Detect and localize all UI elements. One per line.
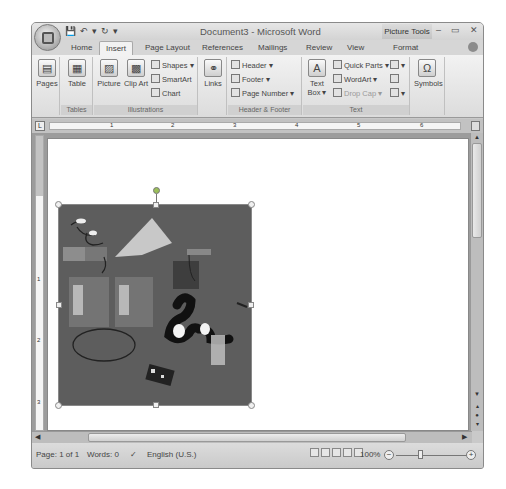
table-button[interactable]: ▦ Table <box>64 59 90 88</box>
text-box-icon: A <box>308 59 326 77</box>
scroll-left-button[interactable]: ◀ <box>35 433 40 441</box>
web-layout-view-icon[interactable] <box>332 448 341 457</box>
previous-page-button[interactable]: ▴ <box>473 403 481 410</box>
scroll-down-button[interactable]: ▼ <box>473 391 481 398</box>
table-icon: ▦ <box>68 59 86 77</box>
object-button[interactable]: ▾ <box>390 88 405 99</box>
tab-view[interactable]: View <box>341 41 370 55</box>
page-icon: ▤ <box>38 59 56 77</box>
group-tables: ▦ Table Tables <box>61 57 93 115</box>
picture-tools-label: Picture Tools <box>382 24 432 39</box>
group-label-tables: Tables <box>61 105 92 115</box>
outline-view-icon[interactable] <box>343 448 352 457</box>
tab-references[interactable]: References <box>196 41 249 55</box>
tab-mailings[interactable]: Mailings <box>252 41 293 55</box>
picture-icon: ▨ <box>100 59 118 77</box>
zoom-in-button[interactable]: + <box>466 450 476 460</box>
tab-home[interactable]: Home <box>65 41 98 55</box>
redo-icon[interactable]: ↻ <box>101 25 109 37</box>
group-illustrations: ▨ Picture ▩ Clip Art Shapes ▾ SmartArt C… <box>94 57 198 115</box>
zoom-level[interactable]: 100% <box>360 450 380 459</box>
resize-handle-bottom[interactable] <box>153 402 159 408</box>
resize-handle-top[interactable] <box>153 202 159 208</box>
clip-art-button[interactable]: ▩ Clip Art <box>123 59 149 88</box>
tab-format[interactable]: Format <box>387 41 424 55</box>
document-page[interactable] <box>47 138 469 431</box>
rotation-handle[interactable] <box>153 187 160 194</box>
clip-art-icon: ▩ <box>127 59 145 77</box>
group-label-text: Text <box>303 105 409 115</box>
chart-button[interactable]: Chart <box>151 88 180 99</box>
title-bar: 💾 ↶ ▾ ↻ ▾ Document3 - Microsoft Word Pic… <box>32 23 483 40</box>
resize-handle-top-left[interactable] <box>55 201 62 208</box>
resize-handle-bottom-right[interactable] <box>248 402 255 409</box>
selected-picture[interactable] <box>58 204 252 406</box>
header-button[interactable]: Header ▾ <box>231 60 273 71</box>
shapes-button[interactable]: Shapes ▾ <box>151 60 194 71</box>
drop-cap-button[interactable]: Drop Cap ▾ <box>333 88 382 99</box>
group-text: A Text Box ▾ Quick Parts ▾ WordArt ▾ Dro… <box>303 57 410 115</box>
links-button[interactable]: ⚭ Links <box>200 59 226 88</box>
language[interactable]: English (U.S.) <box>147 450 196 459</box>
vertical-ruler[interactable]: 1 2 3 <box>35 135 44 431</box>
select-browse-object-button[interactable]: ● <box>473 412 481 419</box>
group-label-illustrations: Illustrations <box>94 105 197 115</box>
office-logo-icon <box>42 32 54 44</box>
undo-icon[interactable]: ↶ <box>80 25 88 37</box>
page-number-button[interactable]: Page Number ▾ <box>231 88 294 99</box>
scroll-right-button[interactable]: ▶ <box>462 433 467 441</box>
save-icon[interactable]: 💾 <box>65 25 76 37</box>
tab-review[interactable]: Review <box>300 41 338 55</box>
resize-handle-left[interactable] <box>56 302 62 308</box>
word-window: 💾 ↶ ▾ ↻ ▾ Document3 - Microsoft Word Pic… <box>31 22 484 469</box>
text-box-button[interactable]: A Text Box ▾ <box>304 59 330 97</box>
group-pages: ▤ Pages <box>34 57 60 115</box>
header-icon <box>231 60 240 69</box>
links-icon: ⚭ <box>204 59 222 77</box>
tab-page-layout[interactable]: Page Layout <box>139 41 196 55</box>
vertical-scrollbar[interactable]: ▲ ▼ ▴ ● ▾ <box>470 133 483 431</box>
resize-handle-bottom-left[interactable] <box>55 402 62 409</box>
undo-dropdown-icon[interactable]: ▾ <box>92 25 97 37</box>
tab-selector[interactable]: L <box>35 121 45 131</box>
proofing-icon[interactable]: ✓ <box>130 450 137 459</box>
pages-button[interactable]: ▤ Pages <box>34 59 60 88</box>
horizontal-ruler[interactable]: 1 2 3 4 5 6 <box>49 122 461 130</box>
customize-qat-icon[interactable]: ▾ <box>113 25 118 37</box>
help-icon[interactable] <box>468 42 478 52</box>
document-area: 1 2 3 <box>32 133 472 431</box>
picture-button[interactable]: ▨ Picture <box>96 59 122 88</box>
zoom-slider-thumb[interactable] <box>418 450 423 459</box>
footer-button[interactable]: Footer ▾ <box>231 74 270 85</box>
shapes-icon <box>151 60 160 69</box>
view-ruler-button[interactable] <box>471 121 480 131</box>
signature-line-button[interactable]: ▾ <box>390 60 405 71</box>
quick-parts-icon <box>333 60 342 69</box>
close-button[interactable]: ✕ <box>470 25 478 35</box>
vertical-scroll-thumb[interactable] <box>472 143 482 238</box>
full-screen-reading-view-icon[interactable] <box>321 448 330 457</box>
maximize-button[interactable]: ▭ <box>451 25 460 35</box>
minimize-button[interactable]: – <box>436 25 441 35</box>
resize-handle-top-right[interactable] <box>248 201 255 208</box>
status-bar: Page: 1 of 1 Words: 0 ✓ English (U.S.) 1… <box>32 443 483 469</box>
smartart-button[interactable]: SmartArt <box>151 74 192 85</box>
group-symbols: Ω Symbols <box>411 57 445 115</box>
resize-handle-right[interactable] <box>248 302 254 308</box>
quick-parts-button[interactable]: Quick Parts ▾ <box>333 60 389 71</box>
horizontal-scroll-thumb[interactable] <box>88 433 406 442</box>
print-layout-view-icon[interactable] <box>310 448 319 457</box>
page-count[interactable]: Page: 1 of 1 <box>36 450 79 459</box>
symbols-button[interactable]: Ω Symbols <box>414 59 440 88</box>
next-page-button[interactable]: ▾ <box>473 421 481 428</box>
word-count[interactable]: Words: 0 <box>87 450 119 459</box>
office-button[interactable] <box>34 24 61 51</box>
ribbon: ▤ Pages ▦ Table Tables ▨ Picture ▩ Clip … <box>32 55 483 118</box>
zoom-slider[interactable] <box>396 455 466 456</box>
date-time-button[interactable] <box>390 74 401 85</box>
zoom-out-button[interactable]: − <box>384 450 394 460</box>
horizontal-scrollbar[interactable]: ◀ ▶ <box>32 431 472 443</box>
scroll-up-button[interactable]: ▲ <box>473 134 481 141</box>
tab-insert[interactable]: Insert <box>99 41 133 55</box>
wordart-button[interactable]: WordArt ▾ <box>333 74 377 85</box>
